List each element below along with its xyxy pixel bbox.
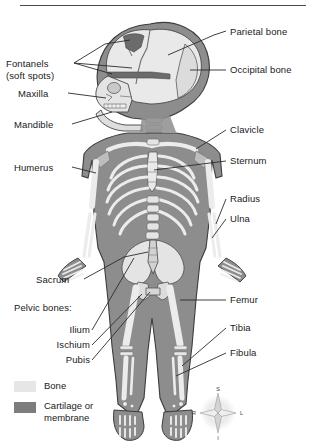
label-ischium: Ischium: [24, 339, 90, 351]
tibia-right: [180, 358, 182, 398]
label-maxilla: Maxilla: [18, 88, 48, 100]
compass-right-label: R: [192, 410, 196, 416]
label-sacrum: Sacrum: [36, 274, 69, 286]
label-sternum: Sternum: [230, 155, 267, 167]
label-mandible: Mandible: [14, 119, 53, 131]
compass-left-label: L: [240, 410, 243, 416]
legend-swatch-cartilage: [14, 402, 36, 413]
label-pelvic-bones: Pelvic bones:: [14, 302, 72, 314]
humerus-right: [208, 162, 212, 206]
compass-rose: S I R L: [192, 386, 243, 441]
label-pubis: Pubis: [24, 354, 90, 366]
compass-inferior-label: I: [217, 435, 219, 441]
label-clavicle: Clavicle: [230, 124, 264, 136]
tibia-left: [124, 358, 126, 398]
label-parietal-bone: Parietal bone: [230, 26, 287, 38]
compass-superior-label: S: [216, 386, 220, 392]
fontanel-band: [108, 72, 170, 79]
label-radius: Radius: [230, 193, 260, 205]
skeleton-figure: S I R L Fontanels (soft spots) Maxilla M…: [0, 0, 315, 446]
label-fontanels: Fontanels (soft spots): [6, 58, 54, 81]
foot-right: [162, 410, 193, 440]
legend-swatch-bone: [14, 381, 36, 392]
label-fibula: Fibula: [230, 347, 256, 359]
leader-radius: [216, 199, 226, 224]
humerus-left: [92, 162, 96, 206]
label-femur: Femur: [230, 294, 258, 306]
label-tibia: Tibia: [230, 322, 251, 334]
label-humerus: Humerus: [14, 162, 53, 174]
label-occipital-bone: Occipital bone: [230, 64, 292, 76]
hand-right: [218, 258, 246, 282]
foot-left: [114, 410, 145, 440]
skull-group: [96, 22, 210, 137]
label-ilium: Ilium: [24, 324, 90, 336]
legend-label-cartilage: Cartilage or membrane: [44, 400, 93, 423]
legend-label-bone: Bone: [44, 380, 66, 392]
label-ulna: Ulna: [230, 213, 250, 225]
